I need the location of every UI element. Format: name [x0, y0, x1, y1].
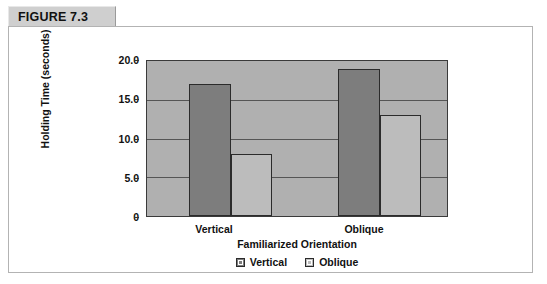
x-category-vertical: Vertical — [159, 223, 269, 235]
bar-vertical-oblique — [231, 154, 272, 216]
y-axis-ticks: 20.0 15.0 10.0 5.0 0 — [81, 27, 139, 274]
plot-area — [146, 60, 448, 217]
y-tick-mark-10 — [134, 139, 139, 140]
bar-vertical-vertical — [189, 84, 231, 216]
y-tick-mark-20 — [134, 60, 139, 61]
bar-chart: Holding Time (seconds) 20.0 15.0 10.0 5.… — [9, 27, 534, 274]
figure-frame: Holding Time (seconds) 20.0 15.0 10.0 5.… — [8, 26, 533, 273]
chart-legend: Vertical Oblique — [146, 256, 448, 268]
bar-oblique-vertical — [338, 69, 380, 216]
x-category-oblique: Oblique — [309, 223, 419, 235]
y-tick-mark-5 — [134, 178, 139, 179]
legend-item-vertical: Vertical — [236, 256, 287, 268]
legend-label-vertical: Vertical — [250, 256, 287, 268]
figure-label-tab: FIGURE 7.3 — [8, 6, 116, 28]
y-axis-title: Holding Time (seconds) — [39, 9, 51, 169]
legend-label-oblique: Oblique — [319, 256, 358, 268]
y-tick-mark-0 — [134, 217, 139, 218]
y-tick-mark-15 — [134, 99, 139, 100]
bar-oblique-oblique — [380, 115, 421, 216]
legend-swatch-oblique-icon — [305, 258, 314, 267]
legend-swatch-vertical-icon — [236, 258, 245, 267]
x-axis-title: Familiarized Orientation — [146, 238, 448, 250]
legend-item-oblique: Oblique — [305, 256, 358, 268]
